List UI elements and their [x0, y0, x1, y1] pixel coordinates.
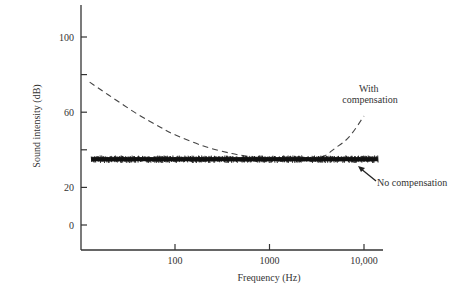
annotation-no-compensation: No compensation [377, 177, 447, 188]
y-tick-label: 100 [59, 32, 74, 43]
series-with-compensation [90, 82, 364, 159]
annotation-with-compensation: With compensation [342, 83, 398, 105]
x-tick-label: 100 [168, 255, 183, 266]
x-axis-title: Frequency (Hz) [237, 272, 300, 284]
x-tick-label: 10,000 [350, 255, 378, 266]
y-axis-title: Sound intensity (dB) [31, 84, 43, 167]
x-ticks: 100100010,000 [168, 244, 378, 266]
y-tick-label: 20 [64, 182, 74, 193]
series-layer [90, 82, 378, 163]
series-no-compensation [91, 155, 378, 163]
chart: 10060200 100100010,000 Sound intensity (… [0, 0, 474, 300]
x-tick-label: 1000 [260, 255, 280, 266]
y-tick-label: 0 [69, 220, 74, 231]
y-tick-label: 60 [64, 107, 74, 118]
y-ticks: 10060200 [59, 32, 87, 231]
arrow-icon [358, 166, 376, 181]
